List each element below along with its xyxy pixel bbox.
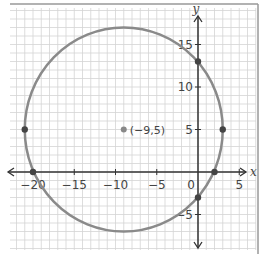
x-tick-label: −10 — [103, 178, 128, 192]
y-axis-label: y — [192, 2, 200, 16]
data-point — [195, 194, 201, 200]
x-tick-label: −15 — [62, 178, 87, 192]
data-point — [211, 169, 217, 175]
data-point — [22, 126, 28, 132]
data-point — [30, 169, 36, 175]
x-tick-label: 0 — [187, 178, 195, 192]
x-tick-label: −5 — [148, 178, 166, 192]
x-axis-label: x — [250, 165, 257, 179]
center-point-label: (−9,5) — [130, 124, 165, 137]
center-point — [121, 127, 127, 133]
data-point — [220, 126, 226, 132]
x-tick-label: 5 — [235, 178, 243, 192]
y-tick-label: 10 — [178, 80, 193, 94]
data-point — [195, 58, 201, 64]
circle-graph: xy −20−15−10−505−551015 (−9,5) — [0, 0, 264, 260]
y-tick-label: 5 — [185, 123, 193, 137]
